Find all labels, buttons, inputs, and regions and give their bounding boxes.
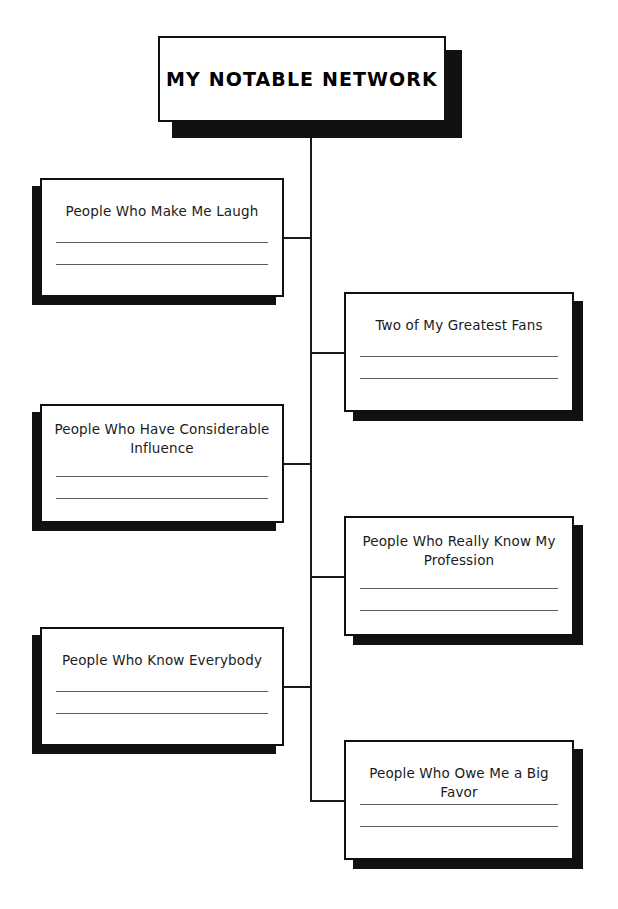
node-card-right-2[interactable]: People Who Really Know My Profession — [344, 516, 574, 636]
connector-spine-vertical — [310, 120, 312, 802]
node-card-left-2-label: People Who Have Considerable Influence — [52, 420, 272, 458]
node-card-right-2-writing-line-1[interactable] — [360, 588, 558, 589]
connector-branch-left-1 — [282, 237, 312, 239]
connector-branch-left-2 — [282, 463, 312, 465]
worksheet-canvas: MY NOTABLE NETWORK People Who Make Me La… — [0, 0, 618, 909]
page-title: MY NOTABLE NETWORK — [166, 68, 438, 90]
connector-branch-right-2 — [310, 576, 346, 578]
node-card-right-2-writing-line-2[interactable] — [360, 610, 558, 611]
connector-branch-right-1 — [310, 352, 346, 354]
node-card-right-1-writing-line-2[interactable] — [360, 378, 558, 379]
node-card-left-1-writing-line-2[interactable] — [56, 264, 268, 265]
node-card-left-1-label: People Who Make Me Laugh — [52, 202, 272, 221]
node-card-left-1[interactable]: People Who Make Me Laugh — [40, 178, 284, 297]
node-card-right-1-label: Two of My Greatest Fans — [356, 316, 562, 335]
node-card-right-2-label: People Who Really Know My Profession — [356, 532, 562, 570]
node-card-left-3-label: People Who Know Everybody — [52, 651, 272, 670]
node-card-left-3-writing-line-2[interactable] — [56, 713, 268, 714]
node-card-right-3-label: People Who Owe Me a Big Favor — [356, 764, 562, 802]
connector-branch-left-3 — [282, 686, 312, 688]
node-card-left-1-writing-line-1[interactable] — [56, 242, 268, 243]
node-card-right-1[interactable]: Two of My Greatest Fans — [344, 292, 574, 412]
title-card: MY NOTABLE NETWORK — [158, 36, 446, 122]
node-card-left-3-writing-line-1[interactable] — [56, 691, 268, 692]
node-card-right-1-writing-line-1[interactable] — [360, 356, 558, 357]
node-card-left-3[interactable]: People Who Know Everybody — [40, 627, 284, 746]
node-card-left-2-writing-line-2[interactable] — [56, 498, 268, 499]
node-card-right-3-writing-line-2[interactable] — [360, 826, 558, 827]
node-card-right-3[interactable]: People Who Owe Me a Big Favor — [344, 740, 574, 860]
node-card-left-2-writing-line-1[interactable] — [56, 476, 268, 477]
node-card-left-2[interactable]: People Who Have Considerable Influence — [40, 404, 284, 523]
node-card-right-3-writing-line-1[interactable] — [360, 804, 558, 805]
connector-branch-right-3 — [310, 800, 346, 802]
